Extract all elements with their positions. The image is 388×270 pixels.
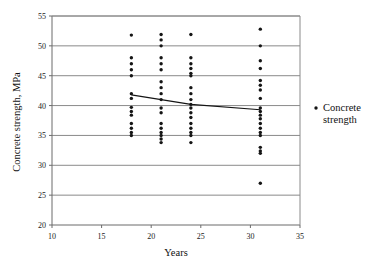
y-tick-label-50: 50	[38, 42, 46, 51]
legend-label-line-1: Concrete	[323, 102, 361, 113]
x-axis-ticks: 101520253035	[48, 225, 304, 241]
data-point	[259, 110, 262, 113]
data-point	[259, 79, 262, 82]
x-tick-label-20: 20	[147, 232, 155, 241]
legend-marker-icon	[314, 106, 317, 109]
x-axis-title: Years	[164, 247, 187, 258]
y-tick-label-30: 30	[38, 161, 46, 170]
data-point	[130, 131, 133, 134]
y-tick-label-20: 20	[38, 221, 46, 230]
axis-lines	[52, 16, 300, 225]
data-point	[189, 62, 192, 65]
data-point	[159, 141, 162, 144]
data-point	[130, 68, 133, 71]
data-point	[259, 152, 262, 155]
y-tick-label-45: 45	[38, 72, 46, 81]
x-tick-label-35: 35	[296, 232, 304, 241]
data-point	[259, 59, 262, 62]
data-point	[259, 88, 262, 91]
y-tick-label-25: 25	[38, 191, 46, 200]
data-point	[189, 141, 192, 144]
chart-legend: Concretestrength	[314, 102, 361, 125]
data-point	[159, 33, 162, 36]
data-point	[130, 33, 133, 36]
data-point	[259, 122, 262, 125]
data-point	[259, 182, 262, 185]
data-point	[159, 62, 162, 65]
data-point	[130, 122, 133, 125]
data-point	[259, 113, 262, 116]
data-point	[159, 127, 162, 130]
gridlines	[52, 16, 300, 195]
data-point	[259, 131, 262, 134]
data-point	[259, 146, 262, 149]
trend-line	[131, 95, 260, 110]
data-point	[130, 62, 133, 65]
data-point	[189, 74, 192, 77]
data-point	[259, 84, 262, 87]
data-point	[159, 38, 162, 41]
data-point	[189, 127, 192, 130]
data-point	[159, 56, 162, 59]
data-point	[259, 134, 262, 137]
chart-container: 2025303540455055 101520253035 Concretest…	[0, 0, 388, 270]
data-point	[189, 56, 192, 59]
data-point	[130, 74, 133, 77]
data-point	[159, 106, 162, 109]
data-point	[189, 92, 192, 95]
x-tick-label-25: 25	[197, 232, 205, 241]
data-point	[130, 113, 133, 116]
data-point	[189, 131, 192, 134]
legend-label-line-2: strength	[323, 114, 358, 125]
x-tick-label-10: 10	[48, 232, 56, 241]
data-point	[259, 117, 262, 120]
data-point	[159, 92, 162, 95]
data-point	[259, 97, 262, 100]
data-point	[189, 106, 192, 109]
data-point	[259, 67, 262, 70]
y-tick-label-55: 55	[38, 12, 46, 21]
data-point	[159, 134, 162, 137]
data-point	[189, 111, 192, 114]
data-point	[189, 86, 192, 89]
data-point	[189, 33, 192, 36]
data-point	[189, 134, 192, 137]
data-point	[130, 127, 133, 130]
data-point	[159, 111, 162, 114]
data-point	[159, 68, 162, 71]
data-point	[130, 134, 133, 137]
data-point	[259, 127, 262, 130]
data-point	[189, 116, 192, 119]
scatter-chart: 2025303540455055 101520253035 Concretest…	[0, 0, 388, 270]
data-point	[259, 27, 262, 30]
data-point	[130, 56, 133, 59]
data-point	[189, 98, 192, 101]
data-point	[130, 106, 133, 109]
data-point	[159, 44, 162, 47]
x-tick-label-30: 30	[246, 232, 254, 241]
y-axis-title: Concrete strength, MPa	[11, 72, 22, 172]
data-point	[159, 86, 162, 89]
data-point	[189, 122, 192, 125]
y-tick-label-40: 40	[38, 102, 46, 111]
data-point	[159, 137, 162, 140]
data-point	[259, 44, 262, 47]
y-axis-ticks: 2025303540455055	[38, 12, 52, 230]
data-point	[159, 122, 162, 125]
x-tick-label-15: 15	[98, 232, 106, 241]
data-point	[159, 131, 162, 134]
data-point	[159, 80, 162, 83]
data-point	[130, 97, 133, 100]
data-points	[130, 27, 262, 184]
data-point	[130, 110, 133, 113]
y-tick-label-35: 35	[38, 131, 46, 140]
data-point	[189, 67, 192, 70]
